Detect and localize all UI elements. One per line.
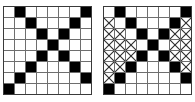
grid-cell-empty[interactable] [137, 7, 147, 17]
grid-cell-empty[interactable] [37, 84, 47, 94]
grid-cell-filled[interactable] [37, 29, 47, 39]
grid-cell-empty[interactable] [137, 40, 147, 50]
grid-cell-empty[interactable] [37, 7, 47, 17]
grid-cell-empty[interactable] [81, 29, 91, 39]
grid-cell-crossed[interactable] [115, 29, 125, 39]
grid-cell-filled[interactable] [37, 51, 47, 61]
grid-cell-empty[interactable] [159, 62, 169, 72]
grid-cell-filled[interactable] [148, 40, 158, 50]
grid-cell-empty[interactable] [37, 73, 47, 83]
grid-cell-crossed[interactable] [104, 73, 114, 83]
grid-cell-filled[interactable] [70, 62, 80, 72]
grid-cell-filled[interactable] [159, 29, 169, 39]
grid-cell-empty[interactable] [4, 18, 14, 28]
grid-cell-filled[interactable] [26, 62, 36, 72]
grid-cell-empty[interactable] [81, 51, 91, 61]
grid-cell-empty[interactable] [4, 40, 14, 50]
grid-cell-crossed[interactable] [126, 40, 136, 50]
grid-cell-empty[interactable] [70, 84, 80, 94]
grid-cell-empty[interactable] [59, 7, 69, 17]
grid-cell-empty[interactable] [148, 51, 158, 61]
grid-cell-filled[interactable] [59, 29, 69, 39]
grid-cell-empty[interactable] [148, 29, 158, 39]
grid-cell-empty[interactable] [70, 73, 80, 83]
grid-cell-empty[interactable] [70, 7, 80, 17]
grid-cell-empty[interactable] [170, 84, 180, 94]
grid-cell-empty[interactable] [148, 7, 158, 17]
grid-cell-empty[interactable] [159, 84, 169, 94]
grid-cell-empty[interactable] [26, 51, 36, 61]
grid-cell-empty[interactable] [15, 84, 25, 94]
grid-cell-empty[interactable] [159, 7, 169, 17]
grid-cell-filled[interactable] [181, 7, 191, 17]
grid-cell-empty[interactable] [4, 62, 14, 72]
grid-cell-crossed[interactable] [170, 51, 180, 61]
grid-cell-empty[interactable] [148, 73, 158, 83]
grid-cell-empty[interactable] [126, 73, 136, 83]
grid-cell-crossed[interactable] [181, 29, 191, 39]
grid-cell-crossed[interactable] [104, 18, 114, 28]
grid-cell-crossed[interactable] [181, 18, 191, 28]
grid-cell-empty[interactable] [148, 84, 158, 94]
grid-cell-empty[interactable] [37, 18, 47, 28]
grid-cell-empty[interactable] [137, 18, 147, 28]
grid-cell-empty[interactable] [148, 62, 158, 72]
grid-cell-crossed[interactable] [126, 51, 136, 61]
grid-cell-filled[interactable] [115, 7, 125, 17]
grid-cell-filled[interactable] [170, 18, 180, 28]
grid-cell-empty[interactable] [81, 18, 91, 28]
grid-cell-empty[interactable] [48, 73, 58, 83]
grid-cell-empty[interactable] [126, 29, 136, 39]
grid-cell-empty[interactable] [59, 73, 69, 83]
grid-cell-empty[interactable] [26, 7, 36, 17]
grid-cell-empty[interactable] [137, 84, 147, 94]
grid-cell-empty[interactable] [159, 73, 169, 83]
grid-cell-crossed[interactable] [104, 51, 114, 61]
grid-cell-filled[interactable] [81, 7, 91, 17]
grid-cell-empty[interactable] [26, 40, 36, 50]
grid-cell-crossed[interactable] [104, 40, 114, 50]
grid-cell-empty[interactable] [4, 51, 14, 61]
grid-cell-empty[interactable] [15, 18, 25, 28]
grid-cell-filled[interactable] [15, 73, 25, 83]
grid-cell-crossed[interactable] [104, 29, 114, 39]
grid-cell-empty[interactable] [37, 40, 47, 50]
grid-cell-crossed[interactable] [104, 62, 114, 72]
grid-cell-empty[interactable] [70, 51, 80, 61]
grid-cell-empty[interactable] [115, 84, 125, 94]
grid-cell-empty[interactable] [48, 62, 58, 72]
grid-cell-empty[interactable] [181, 84, 191, 94]
grid-cell-empty[interactable] [4, 29, 14, 39]
grid-cell-empty[interactable] [15, 29, 25, 39]
grid-cell-empty[interactable] [37, 62, 47, 72]
grid-cell-empty[interactable] [48, 29, 58, 39]
grid-cell-filled[interactable] [115, 73, 125, 83]
grid-cell-empty[interactable] [70, 40, 80, 50]
grid-cell-filled[interactable] [59, 51, 69, 61]
grid-cell-empty[interactable] [59, 18, 69, 28]
grid-cell-filled[interactable] [170, 62, 180, 72]
grid-cell-filled[interactable] [15, 7, 25, 17]
grid-cell-crossed[interactable] [115, 62, 125, 72]
grid-cell-empty[interactable] [159, 40, 169, 50]
grid-cell-empty[interactable] [81, 84, 91, 94]
grid-cell-empty[interactable] [170, 7, 180, 17]
grid-cell-empty[interactable] [137, 62, 147, 72]
grid-cell-empty[interactable] [26, 73, 36, 83]
grid-cell-empty[interactable] [137, 73, 147, 83]
grid-cell-crossed[interactable] [170, 29, 180, 39]
grid-cell-filled[interactable] [137, 51, 147, 61]
grid-cell-empty[interactable] [59, 84, 69, 94]
grid-cell-empty[interactable] [81, 40, 91, 50]
grid-cell-empty[interactable] [48, 84, 58, 94]
grid-cell-crossed[interactable] [115, 51, 125, 61]
grid-cell-empty[interactable] [4, 73, 14, 83]
grid-cell-filled[interactable] [137, 29, 147, 39]
grid-cell-empty[interactable] [159, 18, 169, 28]
grid-cell-empty[interactable] [15, 40, 25, 50]
grid-cell-empty[interactable] [70, 29, 80, 39]
grid-cell-empty[interactable] [26, 84, 36, 94]
grid-cell-crossed[interactable] [181, 62, 191, 72]
grid-cell-filled[interactable] [26, 18, 36, 28]
grid-cell-filled[interactable] [181, 73, 191, 83]
